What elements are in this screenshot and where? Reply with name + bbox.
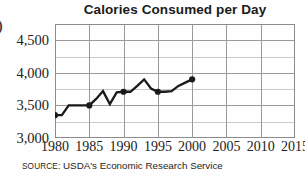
- y-axis-tick-label: 4,000: [16, 64, 49, 81]
- y-axis-tick-label: 3,500: [16, 97, 49, 114]
- data-point-markers: [55, 76, 195, 118]
- source-text: USDA's Economic Research Service: [63, 160, 223, 171]
- x-axis-tick-label: 2005: [212, 139, 240, 155]
- chart-title: Calories Consumed per Day: [55, 2, 295, 17]
- plot-frame: [56, 25, 295, 138]
- plot-area: [55, 24, 295, 138]
- data-point-marker: [120, 89, 126, 95]
- x-axis-tick-label: 1980: [41, 139, 69, 155]
- data-point-marker: [55, 112, 58, 118]
- x-axis-tick-label: 2000: [178, 139, 206, 155]
- data-point-marker: [189, 76, 195, 82]
- y-axis-tick-label: 4,500: [16, 32, 49, 49]
- y-axis-labels: 4,5004,0003,5003,000: [0, 24, 52, 138]
- data-line-series: [55, 79, 192, 115]
- source-keyword: Source:: [22, 162, 60, 171]
- data-point-marker: [155, 89, 161, 95]
- data-point-marker: [86, 102, 92, 108]
- x-axis-labels: 19801985199019952000200520102015: [0, 139, 305, 157]
- x-axis-tick-label: 1985: [75, 139, 103, 155]
- minor-gridlines: [55, 58, 295, 123]
- chart-figure: ) Calories Consumed per Day 4,5004,0003,…: [0, 0, 305, 179]
- source-note: Source: USDA's Economic Research Service: [22, 160, 223, 171]
- x-axis-tick-label: 2010: [247, 139, 275, 155]
- x-axis-tick-label: 1995: [144, 139, 172, 155]
- x-axis-tick-label: 1990: [110, 139, 138, 155]
- major-gridlines: [55, 41, 295, 106]
- x-axis-tick-label: 2015: [281, 139, 305, 155]
